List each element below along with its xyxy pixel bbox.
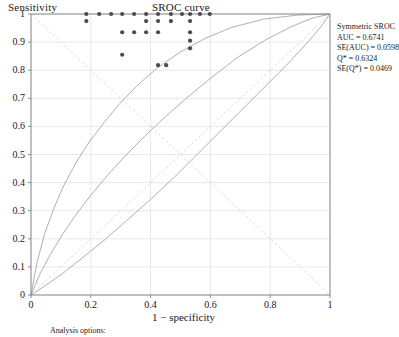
y-tick-label: 0.2 — [3, 233, 25, 244]
y-tick-label: 0.4 — [3, 177, 25, 188]
scatter-points — [84, 12, 212, 67]
y-tick-label: 0.5 — [3, 149, 25, 160]
x-axis-title-text: 1 − specificity — [152, 311, 215, 323]
stats-line: SE(Q*) = 0.0469 — [337, 64, 399, 75]
x-tick-label: 0.4 — [139, 299, 163, 310]
x-tick-label: 0.8 — [258, 299, 282, 310]
y-tick-label: 0.6 — [3, 120, 25, 131]
y-tick-label: 0.8 — [3, 64, 25, 75]
x-tick-label: 0 — [19, 299, 43, 310]
stats-line: AUC = 0.6741 — [337, 33, 399, 44]
stats-heading: Symmetric SROC — [337, 22, 399, 33]
stats-lines: AUC = 0.6741SE(AUC) = 0.0598Q* = 0.6324S… — [337, 33, 399, 75]
stats-line: Q* = 0.6324 — [337, 54, 399, 65]
x-axis-title: 1 − specificity — [0, 311, 397, 323]
y-tick-label: 0.7 — [3, 92, 25, 103]
analysis-options-label: Analysis options: — [50, 326, 106, 335]
stats-line: SE(AUC) = 0.0598 — [337, 43, 399, 54]
y-tick-label: 0.9 — [3, 36, 25, 47]
stats-annotation: Symmetric SROC AUC = 0.6741SE(AUC) = 0.0… — [337, 22, 399, 75]
x-tick-label: 1 — [318, 299, 342, 310]
y-tick-label: 1 — [3, 8, 25, 19]
y-tick-label: 0.1 — [3, 261, 25, 272]
x-tick-label: 0.6 — [198, 299, 222, 310]
tick-marks — [28, 14, 330, 298]
x-tick-label: 0.2 — [79, 299, 103, 310]
y-tick-label: 0.3 — [3, 205, 25, 216]
